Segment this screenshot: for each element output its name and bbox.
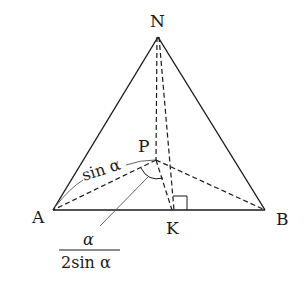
fraction-denominator: 2sin α [61,253,111,272]
fraction-numerator: α [83,230,94,249]
tetrahedron-diagram: N P A B K sin α α 2sin α [0,0,304,283]
label-P: P [138,136,149,156]
edge-NP [156,37,157,160]
label-A: A [31,207,45,227]
edge-NB [158,37,265,210]
label-N: N [150,11,165,31]
label-B: B [276,209,289,229]
edge-NK [159,37,174,210]
right-angle-marker [173,196,187,210]
label-K: K [166,218,179,238]
edge-PK [156,160,172,210]
edge-NA [53,37,158,210]
label-sin-alpha: sin α [79,154,123,184]
leader-sin-alpha [126,160,155,165]
leader-angle-label [100,177,148,226]
